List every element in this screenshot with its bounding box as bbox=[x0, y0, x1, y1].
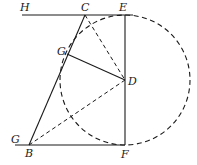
label-c: C bbox=[81, 1, 90, 14]
label-d: D bbox=[127, 75, 137, 88]
label-h: H bbox=[19, 1, 30, 14]
line-c-b bbox=[29, 15, 85, 145]
label-f: F bbox=[120, 148, 129, 161]
label-g-top: G bbox=[57, 45, 66, 58]
geometry-diagram: H C E G D G B F bbox=[0, 0, 197, 165]
label-b: B bbox=[24, 147, 33, 160]
label-g-bottom: G bbox=[11, 133, 20, 146]
line-g-d bbox=[67, 54, 125, 80]
line-c-d bbox=[85, 15, 125, 80]
label-e: E bbox=[118, 1, 127, 14]
